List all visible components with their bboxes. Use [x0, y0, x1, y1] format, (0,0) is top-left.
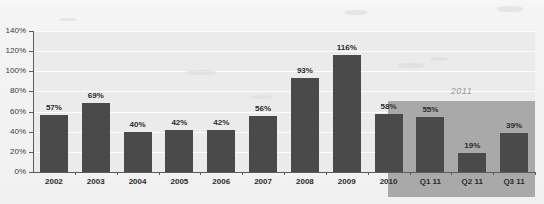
y-axis-tick-label: 40%	[0, 128, 26, 136]
y-axis-tick	[29, 172, 33, 173]
x-axis-tick	[451, 172, 452, 175]
y-axis-tick-label: 60%	[0, 108, 26, 116]
bar-value-label: 69%	[76, 92, 116, 100]
x-axis-tick-label: Q2 11	[452, 177, 492, 186]
scan-artifact	[345, 10, 367, 15]
scan-artifact	[497, 6, 523, 12]
bar-value-label: 55%	[410, 106, 450, 114]
bar-value-label: 116%	[327, 44, 367, 52]
y-axis-tick	[29, 31, 33, 32]
x-axis-tick-label: 2009	[327, 177, 367, 186]
x-axis-tick	[117, 172, 118, 175]
bar[interactable]	[165, 130, 193, 172]
bar-value-label: 42%	[159, 119, 199, 127]
region-2011-label: 2011	[388, 86, 535, 96]
gridline	[33, 31, 535, 32]
bar[interactable]	[416, 117, 444, 172]
bar-value-label: 58%	[369, 103, 409, 111]
scan-artifact	[398, 63, 424, 68]
y-axis-tick-label: 100%	[0, 67, 26, 75]
x-axis-tick	[410, 172, 411, 175]
x-axis-tick	[75, 172, 76, 175]
scan-artifact	[252, 95, 272, 99]
bar[interactable]	[458, 153, 486, 172]
x-axis-tick	[200, 172, 201, 175]
y-axis-tick-label: 120%	[0, 47, 26, 55]
x-axis-tick-label: 2004	[118, 177, 158, 186]
y-axis-tick	[29, 71, 33, 72]
x-axis-tick-label: Q3 11	[494, 177, 534, 186]
bar[interactable]	[500, 133, 528, 172]
y-axis-tick-label: 0%	[0, 168, 26, 176]
x-axis-tick	[326, 172, 327, 175]
bar-chart-figure: 2011 0%20%40%60%80%100%120%140% 57%69%40…	[0, 0, 544, 204]
gridline	[33, 51, 535, 52]
y-axis-tick	[29, 112, 33, 113]
x-axis-tick	[284, 172, 285, 175]
bar-value-label: 39%	[494, 122, 534, 130]
x-axis-tick-label: Q1 11	[410, 177, 450, 186]
x-axis-tick-label: 2002	[34, 177, 74, 186]
y-axis-tick	[29, 152, 33, 153]
x-axis-tick-label: 2003	[76, 177, 116, 186]
y-axis-tick-label: 20%	[0, 148, 26, 156]
bar-value-label: 57%	[34, 104, 74, 112]
scan-artifact	[186, 70, 216, 75]
bar-value-label: 93%	[285, 67, 325, 75]
bar[interactable]	[291, 78, 319, 172]
x-axis-tick	[242, 172, 243, 175]
x-axis-tick-label: 2005	[159, 177, 199, 186]
x-axis-tick-label: 2007	[243, 177, 283, 186]
bar[interactable]	[40, 115, 68, 172]
bar-value-label: 42%	[201, 119, 241, 127]
bar[interactable]	[124, 132, 152, 172]
y-axis-tick	[29, 132, 33, 133]
scan-artifact	[60, 18, 76, 21]
y-axis-tick-label: 140%	[0, 27, 26, 35]
bar[interactable]	[249, 116, 277, 172]
x-axis-tick	[368, 172, 369, 175]
y-axis-tick	[29, 91, 33, 92]
y-axis-tick-label: 80%	[0, 87, 26, 95]
bar[interactable]	[207, 130, 235, 172]
bar[interactable]	[333, 55, 361, 172]
x-axis-tick	[493, 172, 494, 175]
x-axis-tick-label: 2008	[285, 177, 325, 186]
bar[interactable]	[82, 103, 110, 172]
bar-value-label: 19%	[452, 142, 492, 150]
bar[interactable]	[375, 114, 403, 172]
bar-value-label: 56%	[243, 105, 283, 113]
x-axis-tick	[535, 172, 536, 175]
x-axis-tick-label: 2006	[201, 177, 241, 186]
bar-value-label: 40%	[118, 121, 158, 129]
scan-artifact	[430, 57, 448, 61]
y-axis-line	[33, 31, 34, 173]
x-axis-tick	[159, 172, 160, 175]
y-axis-tick	[29, 51, 33, 52]
x-axis-tick-label: 2010	[369, 177, 409, 186]
